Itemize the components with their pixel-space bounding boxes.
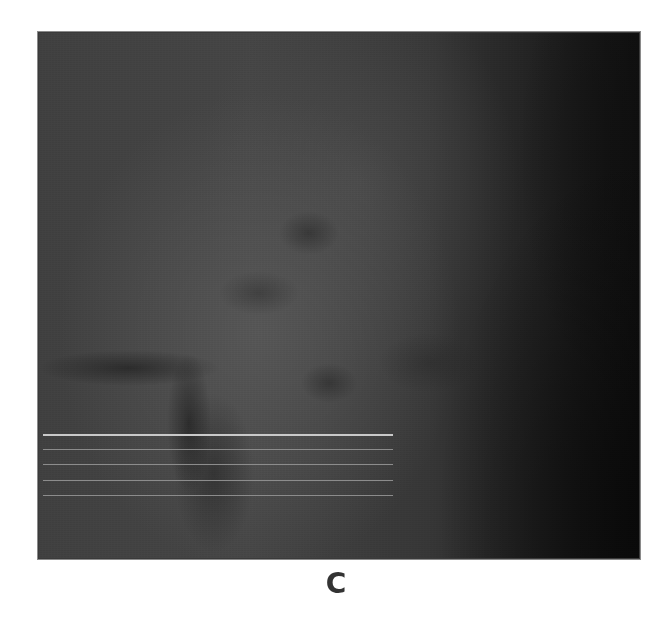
figure-panel [37,31,641,560]
scan-line [43,495,393,496]
scan-line [43,434,393,436]
scan-line [43,480,393,481]
scan-line [43,449,393,450]
scan-line [43,464,393,465]
panel-label: C [0,568,672,600]
